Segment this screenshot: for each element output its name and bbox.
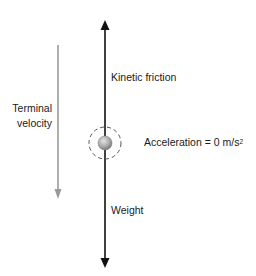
down-arrowhead-icon — [101, 258, 110, 268]
terminal-velocity-label: Terminal velocity — [0, 101, 52, 131]
velocity-arrowhead-icon — [55, 189, 62, 199]
weight-arrow — [101, 150, 110, 268]
acceleration-exponent: 2 — [239, 138, 243, 145]
acceleration-text: Acceleration = 0 m/s — [144, 136, 239, 148]
up-arrowhead-icon — [101, 20, 110, 30]
acceleration-label: Acceleration = 0 m/s2 — [144, 136, 243, 149]
free-body-diagram: Kinetic friction Weight Acceleration = 0… — [0, 0, 256, 276]
terminal-velocity-line2: velocity — [0, 116, 52, 131]
kinetic-friction-label: Kinetic friction — [111, 71, 176, 84]
kinetic-friction-arrow — [101, 20, 110, 136]
terminal-velocity-arrow — [55, 45, 62, 199]
falling-object-ball — [98, 136, 112, 150]
weight-label: Weight — [111, 204, 144, 217]
terminal-velocity-line1: Terminal — [0, 101, 52, 116]
